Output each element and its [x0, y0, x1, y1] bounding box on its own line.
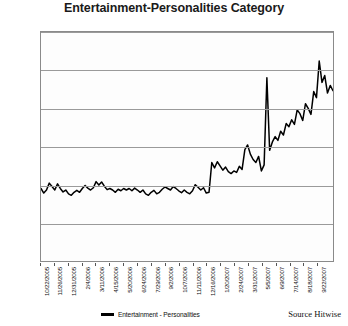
- gridline: [41, 186, 333, 187]
- gridline: [41, 70, 333, 71]
- x-axis-tick-mark: [303, 263, 304, 266]
- x-axis-tick-label: 5/20/2006: [126, 267, 133, 293]
- x-axis-tick-mark: [137, 263, 138, 266]
- x-axis-tick-mark: [151, 263, 152, 266]
- legend: Entertainment - Personalities: [101, 311, 200, 318]
- x-axis-tick-mark: [234, 263, 235, 266]
- y-axis-tick-mark: [40, 109, 41, 110]
- x-axis-tick-label: 9/22/2007: [320, 267, 327, 293]
- x-axis-tick-mark: [290, 263, 291, 266]
- x-axis-tick-label: 3/31/2007: [251, 267, 258, 293]
- x-axis: 10/22/200511/26/200512/31/20052/4/20063/…: [40, 263, 334, 315]
- gridline: [41, 32, 333, 33]
- x-axis-tick-mark: [206, 263, 207, 266]
- x-axis-tick-label: 8/18/2007: [306, 267, 313, 293]
- chart-title: Entertainment-Personalities Category: [0, 1, 348, 15]
- x-axis-tick-label: 5/5/2007: [264, 267, 271, 290]
- y-axis-tick-mark: [40, 224, 41, 225]
- x-axis-tick-label: 12/31/2005: [70, 267, 77, 296]
- x-axis-tick-mark: [220, 263, 221, 266]
- x-axis-tick-mark: [68, 263, 69, 266]
- x-axis-tick-label: 1/20/2007: [223, 267, 230, 293]
- x-axis-tick-label: 2/24/2007: [237, 267, 244, 293]
- x-axis-tick-mark: [40, 263, 41, 266]
- x-axis-tick-mark: [276, 263, 277, 266]
- x-axis-tick-label: 10/7/2006: [181, 267, 188, 293]
- y-axis-tick-mark: [40, 147, 41, 148]
- x-axis-tick-mark: [248, 263, 249, 266]
- x-axis-tick-mark: [82, 263, 83, 266]
- x-axis-tick-mark: [317, 263, 318, 266]
- x-axis-tick-mark: [123, 263, 124, 266]
- y-axis-tick-mark: [40, 32, 41, 33]
- x-axis-tick-label: 12/16/2006: [209, 267, 216, 296]
- x-axis-tick-mark: [179, 263, 180, 266]
- x-axis-tick-mark: [193, 263, 194, 266]
- plot-area: 0.0000%0.0500%0.1000%0.1500%0.2000%0.250…: [40, 31, 334, 262]
- x-axis-tick-mark: [109, 263, 110, 266]
- gridline: [41, 147, 333, 148]
- x-axis-tick-label: 2/4/2006: [84, 267, 91, 290]
- x-axis-tick-mark: [95, 263, 96, 266]
- x-axis-tick-label: 6/24/2006: [140, 267, 147, 293]
- x-axis-tick-label: 11/26/2005: [56, 267, 63, 296]
- y-axis-tick-mark: [40, 70, 41, 71]
- legend-swatch-entertainment-personalities: [101, 313, 114, 316]
- x-axis-tick-label: 4/15/2006: [112, 267, 119, 293]
- x-axis-tick-label: 7/29/2006: [154, 267, 161, 293]
- x-axis-tick-label: 9/2/2006: [167, 267, 174, 290]
- gridline: [41, 224, 333, 225]
- source-note: Source Hitwise: [288, 309, 341, 319]
- gridline: [41, 109, 333, 110]
- y-axis-tick-mark: [40, 186, 41, 187]
- x-axis-tick-label: 7/14/2007: [292, 267, 299, 293]
- x-axis-tick-label: 11/11/2006: [195, 267, 202, 295]
- x-axis-tick-mark: [165, 263, 166, 266]
- x-axis-tick-label: 6/9/2007: [278, 267, 285, 290]
- x-axis-tick-label: 10/22/2005: [43, 267, 50, 296]
- x-axis-tick-mark: [262, 263, 263, 266]
- x-axis-tick-mark: [54, 263, 55, 266]
- legend-label-entertainment-personalities: Entertainment - Personalities: [118, 311, 200, 318]
- x-axis-tick-label: 3/11/2006: [98, 267, 105, 292]
